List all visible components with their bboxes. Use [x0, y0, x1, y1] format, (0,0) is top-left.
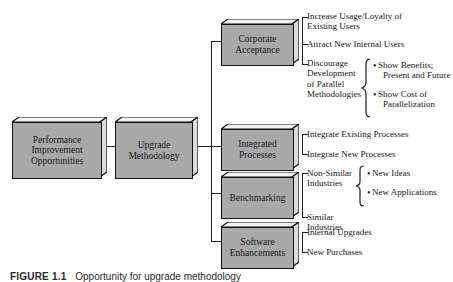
bracket-integrated-processes: [302, 134, 303, 154]
figure-caption: FIGURE 1.1 Opportunity for upgrade metho…: [10, 271, 241, 282]
node-integrated-processes[interactable]: Integrated Processes: [221, 124, 299, 169]
node-software-enhancements[interactable]: Software Enhancements: [221, 222, 299, 267]
brace-non-similar-sub-items: [355, 165, 365, 207]
node-performance-improvement-opportunities[interactable]: Performance Improvement Opportunities: [12, 117, 107, 177]
node-label: Benchmarking: [228, 193, 288, 204]
connector-trunk-vertical: [211, 41, 212, 241]
bullet-new-ideas: •New Ideas: [367, 168, 410, 180]
leaf-integrate-existing-processes: Integrate Existing Processes: [307, 129, 408, 139]
bracket-corporate-acceptance: [302, 17, 303, 65]
leaf-discourage-parallel-development: Discourage Development of Parallel Metho…: [307, 58, 363, 100]
node-corporate-acceptance[interactable]: Corporate Acceptance: [221, 19, 299, 64]
node-label: Software Enhancements: [228, 237, 287, 258]
leaf-increase-usage-loyalty: Increase Usage/Loyalty of Existing Users: [307, 11, 411, 32]
node-face: Benchmarking: [221, 177, 294, 219]
node-face: Integrated Processes: [221, 129, 294, 171]
node-label: Performance Improvement Opportunities: [29, 135, 85, 167]
bracket-software-enhancements: [302, 232, 303, 252]
leaf-integrate-new-processes: Integrate New Processes: [307, 149, 395, 159]
figure-caption-text: Opportunity for upgrade methodology: [75, 271, 241, 282]
figure-caption-label: FIGURE 1.1: [10, 271, 66, 282]
node-face: Performance Improvement Opportunities: [12, 122, 102, 179]
leaf-attract-new-internal-users: Attract New Internal Users: [307, 39, 404, 49]
leaf-internal-upgrades: Internal Upgrades: [307, 227, 372, 237]
node-label: Upgrade Methodology: [126, 140, 181, 161]
bullet-show-benefits: • Show Benefits; Present and Future: [373, 60, 451, 81]
node-label: Corporate Acceptance: [233, 34, 281, 55]
node-upgrade-methodology[interactable]: Upgrade Methodology: [115, 117, 198, 177]
bracket-benchmarking: [302, 173, 303, 218]
node-face: Software Enhancements: [221, 227, 294, 269]
node-benchmarking[interactable]: Benchmarking: [221, 172, 299, 217]
brace-discourage-sub-items: [361, 58, 371, 118]
node-label: Integrated Processes: [236, 139, 279, 160]
leaf-new-purchases: New Purchases: [307, 247, 362, 257]
bullet-show-cost-parallelization: • Show Cost of Parallelization: [373, 89, 435, 110]
connector-upgrade-to-trunk: [196, 146, 212, 147]
leaf-non-similar-industries: Non-Similar Industries: [307, 168, 357, 189]
node-face: Corporate Acceptance: [221, 24, 294, 66]
bullet-new-applications: •New Applications: [367, 187, 437, 199]
node-face: Upgrade Methodology: [115, 122, 193, 179]
